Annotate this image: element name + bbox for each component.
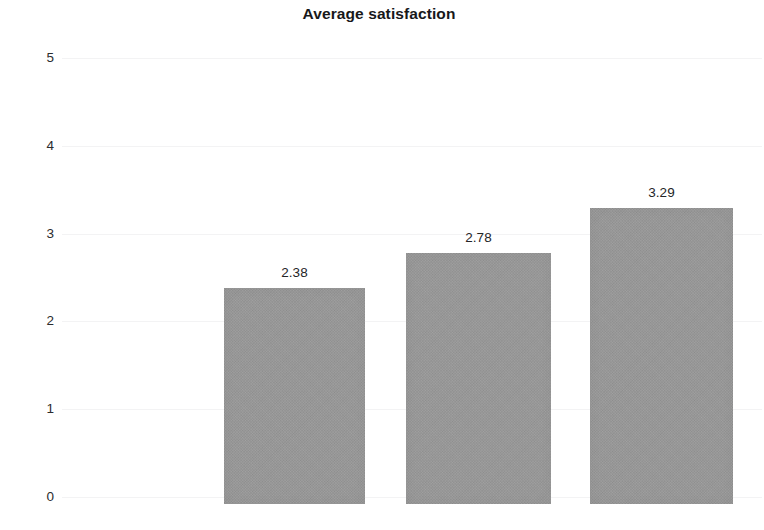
gridline — [62, 146, 762, 147]
y-axis-tick-label: 5 — [20, 51, 54, 65]
gridline — [62, 58, 762, 59]
y-axis-tick-label: 1 — [20, 402, 54, 416]
chart-container: Average satisfaction 5432102.382.783.29 — [0, 0, 764, 530]
y-axis-tick-label: 2 — [20, 314, 54, 328]
bar[interactable] — [224, 288, 365, 504]
bar-value-label: 3.29 — [590, 186, 733, 200]
bar[interactable] — [590, 208, 733, 504]
bar-value-label: 2.38 — [224, 266, 365, 280]
bar[interactable] — [406, 253, 551, 504]
plot-area: 5432102.382.783.29 — [0, 0, 764, 530]
bar-value-label: 2.78 — [406, 231, 551, 245]
y-axis-tick-label: 4 — [20, 139, 54, 153]
y-axis-tick-label: 0 — [20, 490, 54, 504]
y-axis-tick-label: 3 — [20, 227, 54, 241]
